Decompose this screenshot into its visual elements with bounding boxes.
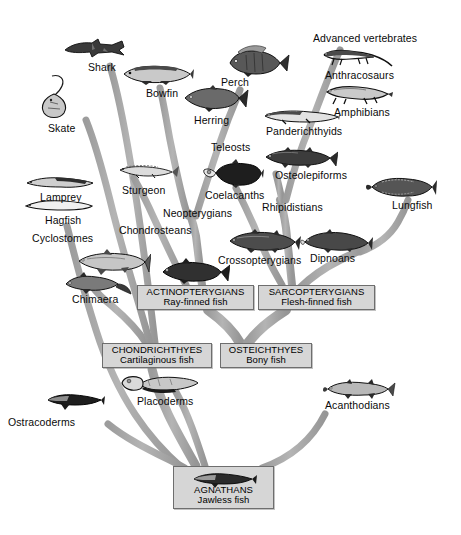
osteolepiforms-illustration xyxy=(262,145,338,169)
label-rhipidistians: Rhipidistians xyxy=(262,202,323,213)
dipnoans-illustration xyxy=(300,228,374,253)
label-lamprey: Lamprey xyxy=(40,192,82,203)
label-panderichthyids: Panderichthyids xyxy=(266,126,342,137)
label-sturgeon: Sturgeon xyxy=(122,185,165,196)
lamprey-illustration xyxy=(25,174,95,190)
label-acanthodians: Acanthodians xyxy=(325,400,390,411)
label-skate: Skate xyxy=(48,123,75,134)
branch-actinopterygians xyxy=(208,310,240,343)
label-anthracosaurs: Anthracosaurs xyxy=(325,70,394,81)
label-shark: Shark xyxy=(88,62,116,73)
anthracosaurs-illustration xyxy=(320,46,394,69)
label-chimaera: Chimaera xyxy=(72,294,118,305)
group-box-sarcopterygians[interactable]: SARCOPTERYGIANS Flesh-finned fish xyxy=(258,285,375,310)
label-bowfin: Bowfin xyxy=(146,88,178,99)
amphibians-illustration xyxy=(322,82,394,105)
label-teleosts: Teleosts xyxy=(211,142,250,153)
label-cyclostomes: Cyclostomes xyxy=(32,233,93,244)
lungfish-illustration xyxy=(366,175,438,199)
crossopterygians-illustration xyxy=(225,228,301,254)
label-osteolepiforms: Osteolepiforms xyxy=(275,170,347,181)
sturgeon-illustration xyxy=(118,161,180,179)
label-hagfish: Hagfish xyxy=(45,215,81,226)
actinopterygians-subtitle: Ray-finned fish xyxy=(142,297,249,307)
label-crossopterygians: Crossopterygians xyxy=(218,255,301,266)
branch-acanthodians xyxy=(262,414,325,468)
group-box-agnathans[interactable]: AGNATHANS Jawless fish xyxy=(173,466,274,509)
label-placoderms: Placoderms xyxy=(137,396,193,407)
placoderms-illustration xyxy=(118,373,200,396)
label-coelacanths: Coelacanths xyxy=(205,190,264,201)
label-herring: Herring xyxy=(194,115,229,126)
sarcopterygians-subtitle: Flesh-finned fish xyxy=(263,297,370,307)
chondrichthyes-subtitle: Cartilaginous fish xyxy=(107,355,207,365)
label-neopterygians: Neopterygians xyxy=(163,208,232,219)
agnathan-illustration xyxy=(191,471,257,488)
label-lungfish: Lungfish xyxy=(392,200,433,211)
ostracoderms-illustration xyxy=(45,391,105,411)
label-chondrosteans: Chondrosteans xyxy=(119,225,192,236)
label-amphibians: Amphibians xyxy=(334,107,390,118)
agnathans-subtitle: Jawless fish xyxy=(178,495,269,505)
perch-illustration xyxy=(224,43,290,78)
acanthodians-illustration xyxy=(322,378,396,400)
shark-illustration xyxy=(62,37,128,59)
skate-illustration xyxy=(38,72,72,120)
osteichthyes-subtitle: Bony fish xyxy=(225,355,307,365)
group-box-osteichthyes[interactable]: OSTEICHTHYES Bony fish xyxy=(220,343,312,368)
label-perch: Perch xyxy=(221,77,249,88)
bowfin-illustration xyxy=(120,62,194,86)
herring-illustration xyxy=(181,84,249,112)
panderichthyids-illustration xyxy=(262,107,340,125)
label-advanced-vertebrates: Advanced vertebrates xyxy=(313,33,417,44)
group-box-chondrichthyes[interactable]: CHONDRICHTHYES Cartilaginous fish xyxy=(102,343,212,368)
group-box-actinopterygians[interactable]: ACTINOPTERYGIANS Ray-finned fish xyxy=(137,285,254,310)
coelacanths-illustration xyxy=(202,159,264,188)
branch-sarcopterygians xyxy=(248,310,286,343)
label-ostracoderms: Ostracoderms xyxy=(8,417,75,428)
label-dipnoans: Dipnoans xyxy=(310,253,355,264)
phylogenetic-tree-diagram: ACTINOPTERYGIANS Ray-finned fish SARCOPT… xyxy=(0,0,461,535)
